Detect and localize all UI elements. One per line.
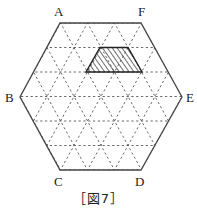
grid-line: [112, 0, 197, 211]
grid-line: [139, 0, 197, 211]
vertex-label-c: C: [54, 174, 63, 189]
grid-line: [0, 0, 90, 211]
grid-line: [166, 0, 197, 211]
grid-line: [166, 0, 197, 211]
vertex-label-b: B: [5, 90, 14, 105]
vertex-label-a: A: [54, 4, 64, 19]
hexagon-figure: AFEDCB: [0, 0, 197, 211]
vertex-label-d: D: [135, 174, 144, 189]
grid-line: [58, 0, 197, 211]
grid-line: [4, 0, 197, 211]
grid-line: [0, 0, 36, 211]
grid-line: [0, 0, 171, 211]
vertex-label-f: F: [138, 4, 145, 19]
grid-line: [58, 0, 197, 211]
grid-line: [0, 0, 144, 211]
figure-caption: ［図7］: [0, 188, 197, 207]
shaded-trapezoid: [86, 48, 142, 73]
triangular-grid: [0, 0, 197, 211]
grid-line: [4, 0, 197, 211]
grid-line: [0, 0, 90, 211]
grid-line: [139, 0, 197, 211]
grid-line: [112, 0, 197, 211]
grid-line: [0, 0, 144, 211]
grid-line: [0, 0, 36, 211]
grid-line: [0, 0, 171, 211]
vertex-label-e: E: [186, 90, 194, 105]
